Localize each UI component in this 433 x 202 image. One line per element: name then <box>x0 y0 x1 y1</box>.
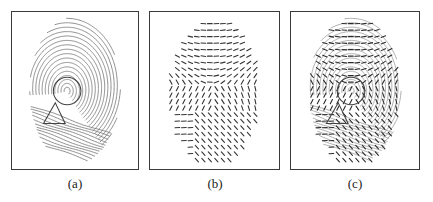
panel-b-label: (b) <box>195 176 235 192</box>
panel-b-orientation-field <box>149 11 280 170</box>
panel-a-label: (a) <box>55 176 95 192</box>
overlay-image <box>291 12 419 169</box>
panel-c-overlay <box>290 11 420 170</box>
panel-a-fingerprint <box>11 11 139 170</box>
fingerprint-image <box>12 12 138 169</box>
panel-c-label: (c) <box>335 176 375 192</box>
orientation-field-image <box>150 12 279 169</box>
